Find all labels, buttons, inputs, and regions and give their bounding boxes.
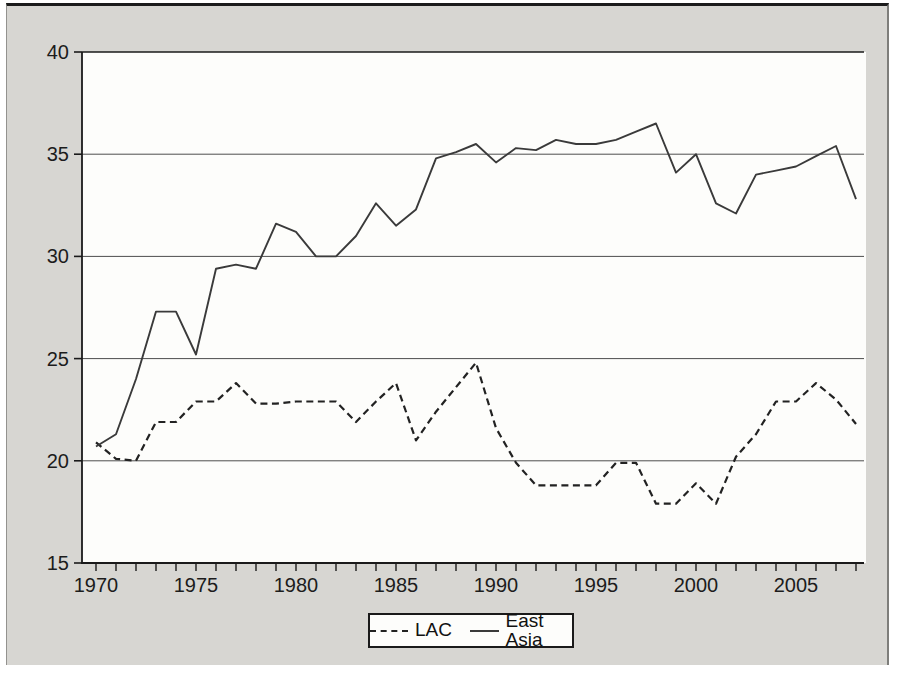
- legend-label-lac: LAC: [415, 620, 452, 641]
- x-tick-label-1980: 1980: [274, 574, 319, 596]
- y-tick-label-35: 35: [47, 143, 69, 165]
- x-tick-label-1970: 1970: [74, 574, 119, 596]
- x-tick-label-1975: 1975: [174, 574, 219, 596]
- y-tick-label-25: 25: [47, 348, 69, 370]
- y-tick-label-20: 20: [47, 450, 69, 472]
- plot-area: [82, 52, 866, 563]
- y-tick-label-15: 15: [47, 552, 69, 574]
- y-tick-label-40: 40: [47, 41, 69, 63]
- y-tick-label-30: 30: [47, 245, 69, 267]
- line-chart: 1520253035401970197519801985199019952000…: [0, 0, 907, 699]
- x-tick-label-2000: 2000: [674, 574, 719, 596]
- x-tick-label-2005: 2005: [774, 574, 819, 596]
- legend-item-east-asia: East Asia: [470, 611, 572, 651]
- legend-label-east-asia: East Asia: [506, 611, 573, 651]
- legend: LAC East Asia: [368, 613, 574, 648]
- x-tick-label-1985: 1985: [374, 574, 419, 596]
- dashed-line-sample: [370, 630, 408, 632]
- x-tick-label-1990: 1990: [474, 574, 519, 596]
- legend-item-lac: LAC: [370, 620, 452, 641]
- x-tick-label-1995: 1995: [574, 574, 619, 596]
- solid-line-sample: [470, 630, 499, 632]
